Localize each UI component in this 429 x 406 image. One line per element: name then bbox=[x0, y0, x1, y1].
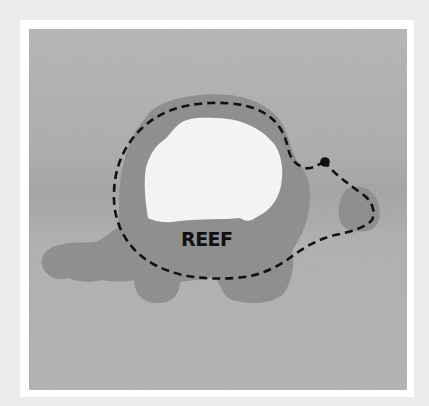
map-stage: REEF bbox=[0, 0, 429, 406]
start-marker-icon bbox=[320, 157, 330, 167]
reef-label: REEF bbox=[181, 228, 233, 250]
reef-map: REEF bbox=[0, 0, 429, 406]
